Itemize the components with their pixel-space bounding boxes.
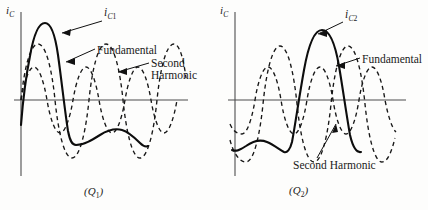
curve-label-ic1: iC1 xyxy=(104,6,116,18)
curve-ic2 xyxy=(232,30,361,152)
label-second-harmonic-q1-line1: Second xyxy=(151,57,185,69)
y-axis-label-q2: iC xyxy=(220,5,228,17)
leader-ic1-arrowhead xyxy=(62,29,71,36)
label-second-harmonic-q1: SecondHarmonic xyxy=(151,57,197,82)
label-fundamental-q2: Fundamental xyxy=(362,53,422,65)
y-axis-label-q1: iC xyxy=(6,5,14,17)
caption-q1: (Q1) xyxy=(84,186,103,198)
panel-q2: iC iC2 Fundamental Second Harmonic (Q2) xyxy=(214,0,428,210)
curve-label-ic2: iC2 xyxy=(345,8,357,20)
curve-ic1 xyxy=(21,23,148,146)
figure-container: iC iC1 Fundamental SecondHarmonic (Q1) xyxy=(0,0,428,210)
leader-second-harmonic-q1-arrowhead xyxy=(118,68,127,75)
leader-second-harmonic-q2 xyxy=(317,124,336,158)
leader-fundamental-q1-arrowhead xyxy=(66,58,75,65)
plot-q1 xyxy=(0,0,214,210)
leader-ic2 xyxy=(318,22,343,34)
label-second-harmonic-q2: Second Harmonic xyxy=(293,159,376,171)
plot-q2 xyxy=(214,0,428,210)
caption-q2: (Q2) xyxy=(289,185,308,197)
panel-q1: iC iC1 Fundamental SecondHarmonic (Q1) xyxy=(0,0,214,210)
leader-fundamental-q1 xyxy=(66,49,95,62)
label-fundamental-q1: Fundamental xyxy=(97,44,157,56)
label-second-harmonic-q1-line2: Harmonic xyxy=(151,69,197,81)
